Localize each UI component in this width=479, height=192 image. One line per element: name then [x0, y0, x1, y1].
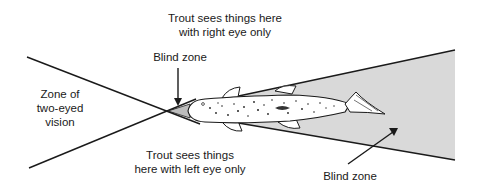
right-eye-label: Trout sees things here with right eye on… — [150, 11, 300, 39]
arrow-blind-zone-front — [174, 68, 182, 106]
left-eye-label: Trout sees things here with left eye onl… — [125, 148, 255, 176]
two-eyed-vision-label: Zone of two-eyed vision — [30, 87, 90, 129]
front-blind-zone-label: Blind zone — [150, 50, 210, 64]
rear-blind-zone-label: Blind zone — [310, 169, 390, 183]
